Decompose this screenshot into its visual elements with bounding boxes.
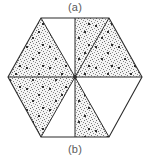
hexagon-diagram: [0, 0, 150, 157]
figure-caption-b: (b): [0, 143, 150, 155]
sector-top-right: [75, 18, 142, 77]
figure-container: (a): [0, 0, 150, 157]
sector-divider-lines: [8, 18, 142, 137]
